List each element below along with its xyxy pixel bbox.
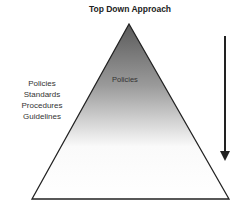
side-list-item: Guidelines [14,111,70,122]
pyramid-inner-label: Policies [112,75,138,84]
side-list: Policies Standards Procedures Guidelines [14,78,70,122]
side-list-item: Procedures [14,100,70,111]
side-list-item: Standards [14,89,70,100]
down-arrow-icon [220,36,230,161]
side-list-item: Policies [14,78,70,89]
